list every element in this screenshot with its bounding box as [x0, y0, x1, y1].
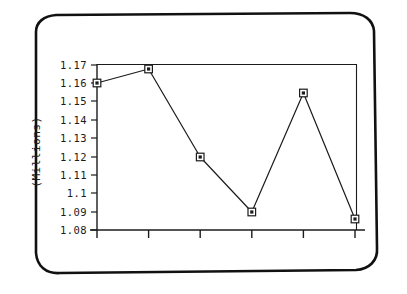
- y-tick-labels: 1.17 1.16 1.15 1.14 1.13 1.12 1.11 1.1 1…: [60, 59, 87, 236]
- y-tick-marks: [91, 65, 97, 230]
- y-tick-label: 1.08: [60, 224, 87, 236]
- plot-frame: [90, 64, 365, 230]
- y-tick-label: 1.13: [60, 132, 87, 144]
- data-point: [248, 208, 256, 216]
- x-tick-marks: [97, 230, 355, 238]
- y-tick-label: 1.12: [60, 151, 87, 163]
- data-point: [93, 79, 101, 87]
- data-point-markers: [93, 65, 359, 223]
- data-point: [196, 153, 204, 161]
- y-tick-label: 1.11: [60, 169, 87, 181]
- data-point: [351, 215, 359, 223]
- y-tick-label: 1.17: [60, 59, 87, 71]
- y-tick-label: 1.15: [60, 95, 87, 107]
- y-axis-title: (Millions): [30, 116, 43, 187]
- line-chart: 1.17 1.16 1.15 1.14 1.13 1.12 1.11 1.1 1…: [0, 0, 407, 294]
- y-tick-label: 1.1: [67, 187, 87, 199]
- chart-screenshot: 1.17 1.16 1.15 1.14 1.13 1.12 1.11 1.1 1…: [0, 0, 407, 294]
- data-line: [97, 69, 355, 219]
- data-point: [300, 89, 308, 97]
- data-point: [145, 65, 153, 73]
- y-tick-label: 1.09: [60, 206, 87, 218]
- y-tick-label: 1.14: [60, 114, 87, 126]
- y-tick-label: 1.16: [60, 77, 87, 89]
